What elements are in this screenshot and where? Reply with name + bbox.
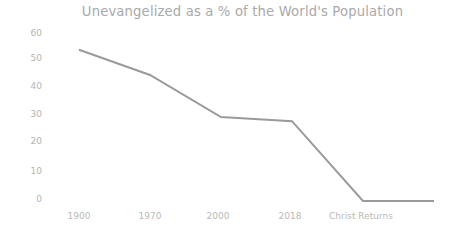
chart-plot-svg (0, 0, 449, 231)
plot-area: 60 50 40 30 20 10 0 1900 1970 2000 2018 … (0, 0, 449, 231)
data-series-line (79, 50, 434, 201)
chart-container: Unevangelized as a % of the World's Popu… (0, 0, 449, 231)
